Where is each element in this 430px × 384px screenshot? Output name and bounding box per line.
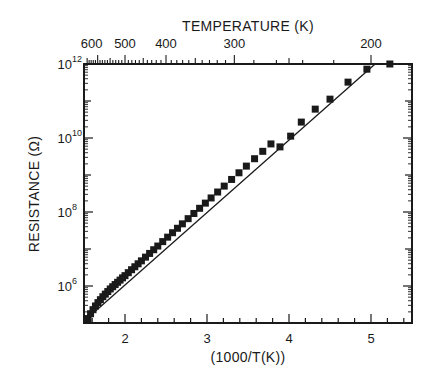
data-point <box>228 176 235 183</box>
data-points <box>85 61 394 323</box>
y-tick-exponent: 10 <box>72 128 82 138</box>
data-point <box>363 66 370 73</box>
top-tick-label: 200 <box>360 36 382 51</box>
data-point <box>259 148 266 155</box>
top-tick-label: 400 <box>155 36 177 51</box>
data-point <box>276 143 283 150</box>
y-tick-label: 10 <box>58 131 72 146</box>
data-point <box>312 106 319 113</box>
x-tick-label: 3 <box>203 331 210 346</box>
top-tick-label: 600 <box>81 36 103 51</box>
resistance-vs-inverse-temperature-chart: 234560050040030020010610810101012 TEMPER… <box>0 0 430 384</box>
y-tick-exponent: 12 <box>72 54 82 64</box>
x-tick-label: 2 <box>121 331 128 346</box>
top-axis-title: TEMPERATURE (K) <box>182 18 314 34</box>
y-tick-exponent: 8 <box>72 202 77 212</box>
y-tick-label: 10 <box>58 57 72 72</box>
axis-ticks <box>84 55 412 323</box>
data-point <box>243 163 250 170</box>
data-point <box>327 96 334 103</box>
x-tick-label: 5 <box>367 331 374 346</box>
top-tick-label: 500 <box>114 36 136 51</box>
plot-area <box>84 64 412 323</box>
y-axis-title: RESISTANCE (Ω) <box>26 136 42 252</box>
data-point <box>251 155 258 162</box>
x-tick-label: 4 <box>285 331 292 346</box>
data-point <box>214 189 221 196</box>
top-tick-label: 300 <box>223 36 245 51</box>
y-tick-exponent: 6 <box>72 276 77 286</box>
x-axis-title: (1000/T(K)) <box>211 349 286 365</box>
data-point <box>235 169 242 176</box>
data-point <box>386 61 393 68</box>
data-point <box>345 79 352 86</box>
y-tick-label: 10 <box>58 279 72 294</box>
data-point <box>221 183 228 190</box>
plot-frame <box>84 64 412 323</box>
data-point <box>267 140 274 147</box>
data-point <box>208 194 215 201</box>
y-tick-label: 10 <box>58 205 72 220</box>
data-point <box>287 133 294 140</box>
data-point <box>298 119 305 126</box>
